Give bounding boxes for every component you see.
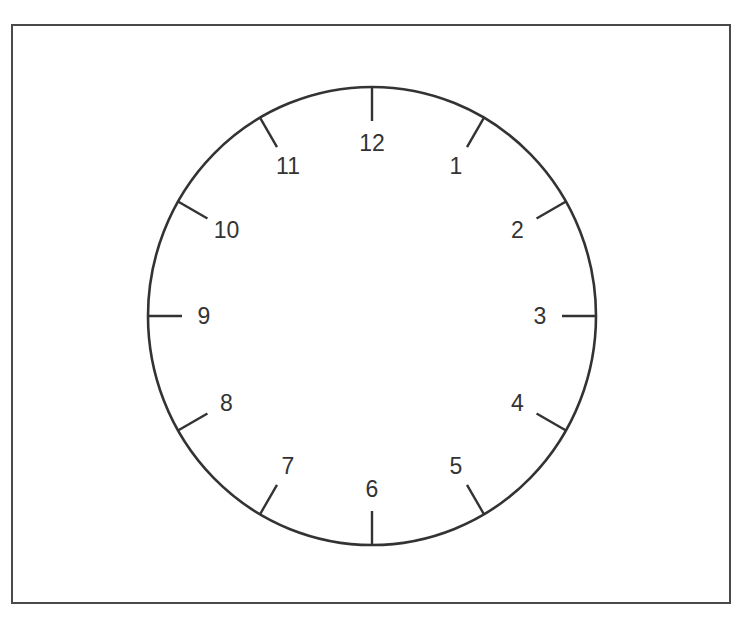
clock-face-diagram: 121234567891011 — [0, 0, 747, 617]
hour-numeral-11: 11 — [276, 153, 300, 179]
hour-numeral-12: 12 — [359, 130, 385, 156]
hour-numeral-4: 4 — [511, 390, 524, 416]
hour-numeral-10: 10 — [214, 217, 240, 243]
hour-numeral-1: 1 — [450, 153, 463, 179]
hour-numeral-6: 6 — [366, 476, 379, 502]
hour-numeral-5: 5 — [450, 453, 463, 479]
hour-numeral-8: 8 — [220, 390, 233, 416]
hour-numeral-3: 3 — [534, 303, 547, 329]
hour-numeral-2: 2 — [511, 217, 524, 243]
hour-numeral-7: 7 — [282, 453, 295, 479]
hour-numeral-9: 9 — [198, 303, 211, 329]
